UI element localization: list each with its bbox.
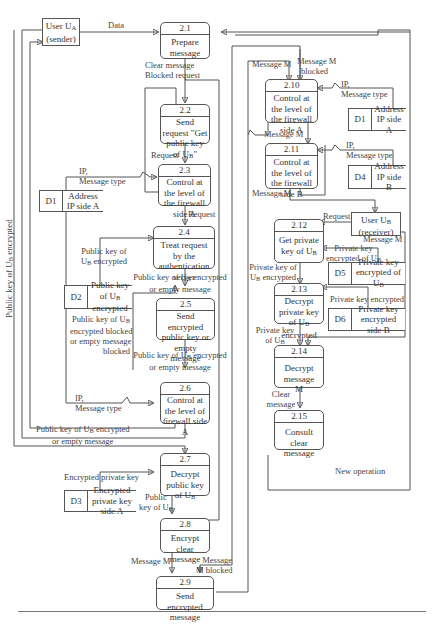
bottom-rule [18,611,426,612]
process-label: Prepare message [161,35,209,60]
process-2-5: 2.5 Send encrypted public key or empty m… [156,298,215,340]
process-number: 2.12 [275,220,323,232]
process-number: 2.6 [161,383,209,395]
data-store-d3: D3 Encrypted private key side A [64,490,136,512]
process-2-3: 2.3 Control at the level of the firewall… [158,164,211,206]
process-2-7: 2.7 Decrypt public key of UB [160,453,210,496]
process-2-6: 2.6 Control at the level of firewall sid… [160,382,210,424]
store-name: Address IP side A [63,191,103,211]
flow-label-clear-message-2: Clearmessage [266,389,296,409]
data-store-d4: D4 Address IP side B [348,165,406,189]
process-number: 2.1 [161,23,209,35]
process-2-2: 2.2 Send request "Get public key of UB" [160,104,210,144]
user-b-label: User UB [361,215,391,225]
process-number: 2.13 [275,284,323,296]
flow-label-message-m-blocked-1: MessageM blocked [196,555,232,575]
flow-label-pk-encrypted-to-2-4: Public key ofUB encrypted [80,246,128,268]
process-number: 2.3 [159,165,210,177]
store-id: D4 [349,166,372,188]
flow-label-message-m-4: Message M [252,188,291,198]
flow-label-public-key-ub: Publickey of UB [139,492,173,514]
store-id: D1 [349,109,372,130]
process-2-11: 2.11 Control at the level of the firewal… [265,143,318,189]
flow-label-message-m-2: Message M [252,59,291,69]
process-label: Control at the level of firewall side A [161,395,209,437]
store-id: D3 [65,491,88,511]
flow-label-request-2: Request [188,209,215,219]
process-label: Consult clear message [275,423,323,463]
process-2-15: 2.15 Consult clear message [274,410,324,450]
store-id: D2 [65,286,88,308]
user-a-role: (sender) [46,34,75,44]
process-2-13: 2.13 Decrypt private key of UB encrypted [274,283,324,324]
data-store-d6: D6 Private key encrypted side B [328,308,405,331]
process-number: 2.7 [161,454,209,466]
store-name: Private key encrypted of UB [352,263,405,284]
flow-label-pk-or-empty-3: Public key of UB encryptedor empty messa… [36,424,130,446]
store-id: D6 [329,309,352,330]
flow-label-pk-blocked: Public key of UBencrypted blockedor empt… [70,314,130,356]
store-name: Address IP side B [372,166,406,188]
process-2-4: 2.4 Treat request by the authentication … [153,226,215,269]
process-2-12: 2.12 Get private key of UB [274,219,324,263]
side-label-public-key-ub-encrypted: Public key of UB encrypted [4,219,14,318]
flow-label-pk-or-empty-1: Public key of UB encryptedor empty messa… [130,272,230,294]
flow-label-new-operation: New operation [335,466,385,476]
process-number: 2.4 [154,227,214,239]
store-name: Public key of UB encrypted [88,286,132,308]
data-store-d1-left: D1 Address IP side A [39,190,103,212]
external-user-b: User UB (receiver) [351,212,401,236]
process-number: 2.10 [266,80,317,92]
flow-label-data: Data [108,20,124,30]
flow-label-message-m-blocked-2: Message Mblocked [297,56,336,76]
flow-label-ip-message-type-4: IP,Message type [346,140,393,160]
data-store-d1-right: D1 Address IP side A [348,108,406,131]
process-number: 2.15 [275,411,323,423]
store-name: Address IP side A [372,109,406,130]
flow-label-private-key-ub-encrypted: Private key ofUB encrypted [248,262,298,284]
store-id: D1 [40,191,63,211]
process-2-1: 2.1 Prepare message [160,22,210,59]
flow-label-ip-message-type-3: IP,Message type [341,79,388,99]
store-id: D5 [329,263,352,284]
external-user-a: User UA (sender) [42,18,80,46]
flow-label-pk-or-empty-2: Public key of UB encryptedor empty messa… [130,350,230,372]
flow-label-clear-message-blocked-request: Clear messageBlocked request [145,60,185,80]
store-name: Encrypted private key side A [88,491,136,511]
flow-label-ip-message-type-2: IP,Message type [75,393,122,413]
flow-label-private-key-encrypted-of-ub: Private keyencrypted of UB [326,243,381,265]
process-label: Send encrypted message [157,589,213,625]
flow-label-request-3: Request [323,211,350,221]
process-number: 2.5 [157,299,214,311]
data-store-d2: D2 Public key of UB encrypted [64,285,132,309]
flow-label-encrypted-private-key: Encrypted private key [64,472,139,482]
process-number: 2.8 [161,519,209,531]
process-number: 2.14 [275,346,323,358]
flow-label-message-m-1: Message M [131,556,170,566]
process-2-9: 2.9 Send encrypted message [156,576,214,610]
process-2-8: 2.8 Encrypt clear message [160,518,210,553]
store-name: Private key encrypted side B [352,309,405,330]
user-a-label: User UA [46,21,76,31]
flow-label-request-1: Request [151,150,178,160]
process-number: 2.2 [161,105,209,117]
process-2-10: 2.10 Control at the level of the firewal… [265,79,318,123]
flow-label-private-key-encrypted: Private key encrypted [330,294,404,304]
data-store-d5: D5 Private key encrypted of UB [328,262,405,285]
process-number: 2.11 [266,144,317,156]
flow-label-ip-message-type-1: IP,Message type [79,166,126,186]
process-label: Get private key of UB [275,232,323,261]
process-2-14: 2.14 Decrypt message M [274,345,324,388]
flow-label-private-key-ub: Private keyof UB [255,325,295,347]
data-flow-diagram: User UA (sender) User UB (receiver) 2.1 … [0,0,433,630]
flow-label-message-m-3: Message M [264,129,303,139]
process-number: 2.9 [157,577,213,589]
